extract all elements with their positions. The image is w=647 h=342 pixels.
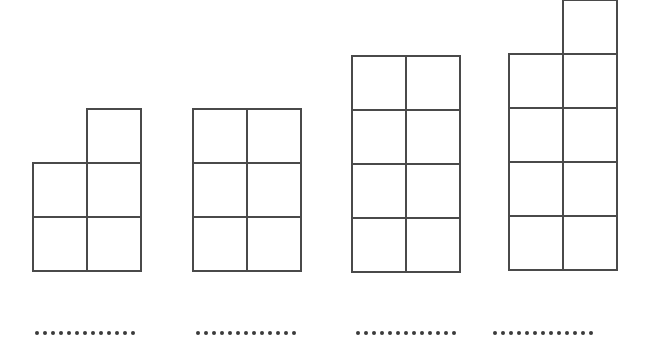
pattern-figure-stage: [0, 0, 647, 342]
answer-line-dot: [533, 331, 537, 335]
answer-line-dot: [581, 331, 585, 335]
answer-dotted-line[interactable]: [493, 331, 597, 337]
unit-square: [562, 215, 618, 271]
answer-line-dot: [565, 331, 569, 335]
unit-square: [562, 0, 618, 55]
unit-square: [508, 107, 564, 163]
answer-line-dot: [589, 331, 593, 335]
answer-line-dot: [525, 331, 529, 335]
answer-line-dot: [517, 331, 521, 335]
unit-square: [562, 53, 618, 109]
answer-line-dot: [541, 331, 545, 335]
pattern-figure-4: [0, 0, 647, 342]
answer-line-dot: [501, 331, 505, 335]
answer-line-dot: [493, 331, 497, 335]
unit-square: [562, 161, 618, 217]
worksheet-canvas: [0, 0, 647, 342]
unit-square: [508, 215, 564, 271]
answer-line-dot: [509, 331, 513, 335]
answer-line-dot: [573, 331, 577, 335]
unit-square: [562, 107, 618, 163]
answer-line-dot: [557, 331, 561, 335]
answer-line-dot: [549, 331, 553, 335]
unit-square: [508, 53, 564, 109]
unit-square: [508, 161, 564, 217]
